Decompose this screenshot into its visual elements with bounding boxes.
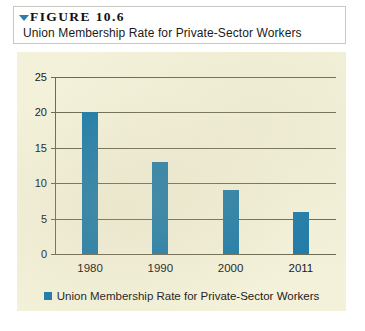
y-axis-tick-mark [51, 77, 56, 78]
y-axis-tick-label: 15 [35, 142, 47, 153]
y-axis-tick-label: 10 [35, 178, 47, 189]
x-axis-tick-label: 1980 [77, 262, 103, 274]
y-axis-tick-mark [51, 183, 56, 184]
y-axis-line [55, 77, 56, 254]
x-axis-tick-label: 1990 [148, 262, 174, 274]
y-axis-tick-mark [51, 254, 56, 255]
x-axis-tick-label: 2011 [289, 262, 314, 274]
gridline [55, 254, 336, 255]
y-axis-tick-label: 20 [35, 107, 47, 118]
y-axis-tick-label: 25 [35, 72, 47, 83]
chart-legend: Union Membership Rate for Private-Sector… [17, 290, 346, 302]
triangle-down-icon [19, 15, 29, 21]
y-axis-tick-mark [51, 219, 56, 220]
bar [293, 212, 309, 254]
y-axis-tick-label: 0 [41, 249, 47, 260]
bar [82, 112, 98, 254]
y-axis-tick-label: 5 [41, 213, 47, 224]
plot-area: 0510152025 1980199020002011 [55, 77, 336, 254]
bar [152, 162, 168, 254]
figure-header-box: FIGURE 10.6 Union Membership Rate for Pr… [13, 6, 346, 44]
bar [223, 190, 239, 254]
y-axis-tick-mark [51, 148, 56, 149]
gridline [55, 77, 336, 78]
legend-color-swatch [44, 292, 52, 300]
legend-label: Union Membership Rate for Private-Sector… [57, 290, 319, 302]
figure-number-label: FIGURE 10.6 [30, 9, 125, 25]
chart-panel: 0510152025 1980199020002011 Union Member… [17, 52, 346, 311]
figure-number-row: FIGURE 10.6 [19, 9, 125, 25]
y-axis-tick-mark [51, 112, 56, 113]
figure-caption: Union Membership Rate for Private-Sector… [23, 26, 302, 40]
x-axis-tick-label: 2000 [218, 262, 244, 274]
